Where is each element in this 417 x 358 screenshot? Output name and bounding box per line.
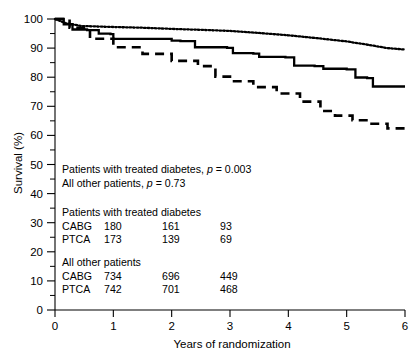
at-risk-row-label: PTCA — [62, 283, 104, 297]
at-risk-row: PTCA17313969 — [62, 233, 260, 247]
at-risk-value: 696 — [162, 270, 220, 284]
survival-chart-figure: 0102030405060708090100 0123456 Survival … — [0, 0, 417, 358]
at-risk-title: All other patients — [62, 256, 260, 270]
at-risk-value: 742 — [104, 283, 162, 297]
at-risk-row: PTCA742701468 — [62, 283, 260, 297]
at-risk-value: 139 — [162, 233, 220, 247]
p-value-annotations: Patients with treated diabetes, p = 0.00… — [62, 163, 251, 190]
chart-annotations: Patients with treated diabetes, p = 0.00… — [0, 0, 417, 358]
p-value-line: All other patients, p = 0.73 — [62, 177, 251, 191]
at-risk-value: 734 — [104, 270, 162, 284]
at-risk-table-treated-diabetes: Patients with treated diabetesCABG180161… — [62, 206, 260, 247]
at-risk-value: 173 — [104, 233, 162, 247]
at-risk-value: 180 — [104, 220, 162, 234]
at-risk-numbers: CABG734696449PTCA742701468 — [62, 270, 260, 297]
p-value-line: Patients with treated diabetes, p = 0.00… — [62, 163, 251, 177]
at-risk-numbers: CABG18016193PTCA17313969 — [62, 220, 260, 247]
at-risk-value: 93 — [220, 220, 260, 234]
at-risk-row-label: CABG — [62, 220, 104, 234]
at-risk-value: 468 — [220, 283, 260, 297]
at-risk-title: Patients with treated diabetes — [62, 206, 260, 220]
at-risk-value: 701 — [162, 283, 220, 297]
at-risk-row-label: CABG — [62, 270, 104, 284]
at-risk-row-label: PTCA — [62, 233, 104, 247]
at-risk-table-all-other-patients: All other patientsCABG734696449PTCA74270… — [62, 256, 260, 297]
at-risk-value: 449 — [220, 270, 260, 284]
at-risk-value: 69 — [220, 233, 260, 247]
at-risk-row: CABG734696449 — [62, 270, 260, 284]
at-risk-value: 161 — [162, 220, 220, 234]
at-risk-row: CABG18016193 — [62, 220, 260, 234]
